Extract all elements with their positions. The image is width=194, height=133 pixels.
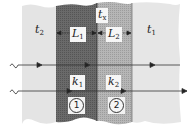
conductivity-k2-label: k2 (106, 75, 121, 90)
layer-1-marker: 1 (69, 98, 84, 113)
temperature-t1-label: t1 (147, 24, 156, 37)
thickness-L1-label: L1 (70, 27, 86, 42)
conductivity-k1-label: k1 (70, 75, 85, 90)
thickness-L2-label: L2 (106, 27, 122, 42)
layer-2-marker: 2 (109, 98, 124, 113)
temperature-t2-label: t2 (35, 24, 44, 37)
interface-temperature-tx-label: tx (96, 8, 108, 23)
fluid-region-right (132, 2, 181, 124)
